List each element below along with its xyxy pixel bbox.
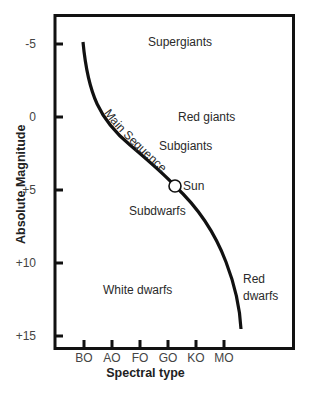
y-tick-label: -5 [6,38,36,50]
x-tick-label: KO [183,352,209,364]
label-white-dwarfs: White dwarfs [103,284,172,296]
label-red-dwarfs-line2: dwarfs [243,290,278,302]
y-tick-label: 0 [6,111,36,123]
sun-marker [169,180,181,192]
hr-diagram-graphic: Main Sequence [0,0,309,397]
y-tick-label: +10 [6,257,36,269]
label-sun: Sun [183,180,204,192]
label-subdwarfs: Subdwarfs [129,205,186,217]
x-tick-label: AO [99,352,125,364]
label-supergiants: Supergiants [148,36,212,48]
y-tick-label: +15 [6,330,36,342]
y-axis-title: Absolute Magnitude [15,124,28,244]
x-tick-label: FO [127,352,153,364]
x-tick-label: GO [155,352,181,364]
x-tick-label: BO [71,352,97,364]
label-red-giants: Red giants [178,111,235,123]
x-tick-label: MO [211,352,237,364]
label-subgiants: Subgiants [159,140,212,152]
x-axis-title: Spectral type [0,366,300,380]
label-red-dwarfs-line1: Red [243,273,265,285]
x-tick-marks [84,340,224,348]
